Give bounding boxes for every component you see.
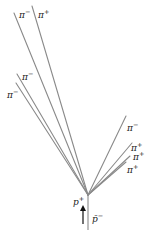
track-pi-minus-3 [16,83,88,195]
label-pi-minus-3: π− [7,89,18,100]
label-charge: − [98,212,103,220]
label-pi-plus-3: π+ [133,151,144,162]
label-antiproton: p̄− [92,213,103,224]
label-pi-minus-2: π− [22,71,33,82]
beam-direction-arrow-icon [80,205,86,224]
label-charge: − [28,70,33,78]
label-charge: + [137,141,142,149]
label-charge: + [44,8,49,16]
label-charge: + [133,163,138,171]
track-pi-minus-2 [17,74,88,195]
track-pi-minus-1 [14,13,88,195]
label-charge: + [139,150,144,158]
label-pi-minus-1: π− [19,9,30,20]
label-pi-minus-4: π− [127,122,138,133]
label-charge: − [133,121,138,129]
track-pi-plus-1 [32,6,88,195]
label-charge: − [25,8,30,16]
track-pi-plus-4 [88,162,126,195]
label-charge: + [79,195,84,203]
label-proton: p+ [73,196,84,207]
label-pi-plus-4: π+ [127,164,138,175]
label-pi-plus-1: π+ [38,9,49,20]
track-pi-minus-4 [88,116,126,195]
label-charge: − [13,88,18,96]
pion-tracks [14,6,132,195]
track-pi-plus-2 [88,143,132,195]
